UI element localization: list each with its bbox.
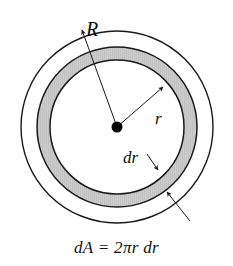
center-dot: [112, 122, 123, 133]
annulus-diagram-svg: [0, 0, 233, 266]
label-outer-radius-R: R: [86, 19, 98, 39]
figure-container: R r dr dA = 2πr dr: [0, 0, 233, 266]
label-thickness-dr: dr: [123, 149, 138, 166]
area-element-formula: dA = 2πr dr: [0, 238, 233, 258]
label-inner-radius-r: r: [155, 110, 162, 127]
